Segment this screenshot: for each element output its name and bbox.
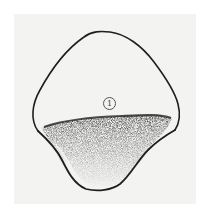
figure-label: 1 <box>103 97 116 110</box>
